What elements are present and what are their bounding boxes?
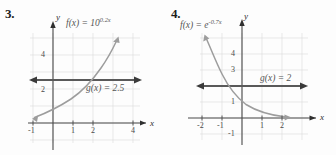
x-tick-4-2: 2 <box>280 122 284 130</box>
figure-page: 3. <box>0 0 336 155</box>
x-tick-3-4: 4 <box>131 127 135 135</box>
x-tick-3-1: 1 <box>71 127 75 135</box>
g-line-4 <box>196 83 308 90</box>
f-label-head-3: f(x) = 10 <box>66 18 100 28</box>
f-label-head-4: f(x) = e <box>180 20 209 30</box>
y-axis-3 <box>50 21 55 150</box>
f-function-label-3: f(x) = 100.2x <box>66 19 111 29</box>
x-tick-3-2: 2 <box>91 127 95 135</box>
x-axis-label-3: x <box>150 119 154 128</box>
y-tick-3-4: 4 <box>41 51 45 59</box>
f-label-exponent-4: -0.7x <box>209 18 222 25</box>
panel-problem-3: 3. <box>0 0 168 155</box>
x-tick-4-neg1: -1 <box>217 122 224 130</box>
f-function-label-4: f(x) = e-0.7x <box>180 21 222 31</box>
panel-problem-4: 4. <box>168 0 336 155</box>
x-axis-3 <box>28 120 146 125</box>
x-tick-4-neg2: -2 <box>197 122 204 130</box>
x-tick-4-1: 1 <box>260 122 264 130</box>
y-tick-4-3: 3 <box>231 66 235 74</box>
x-axis-label-4: x <box>320 113 324 122</box>
y-axis-label-4: y <box>244 12 248 21</box>
f-label-exponent-3: 0.2x <box>100 16 111 23</box>
g-function-label-4: g(x) = 2 <box>260 74 291 84</box>
g-function-label-3: g(x) = 2.5 <box>86 84 124 94</box>
x-axis-4 <box>188 115 316 120</box>
x-tick-3-neg1: -1 <box>28 127 35 135</box>
y-tick-3-2: 2 <box>41 86 45 94</box>
y-axis-label-3: y <box>56 13 60 22</box>
y-tick-4-neg1: -1 <box>228 130 235 138</box>
y-tick-4-4: 4 <box>231 50 235 58</box>
y-tick-4-1: 1 <box>231 98 235 106</box>
